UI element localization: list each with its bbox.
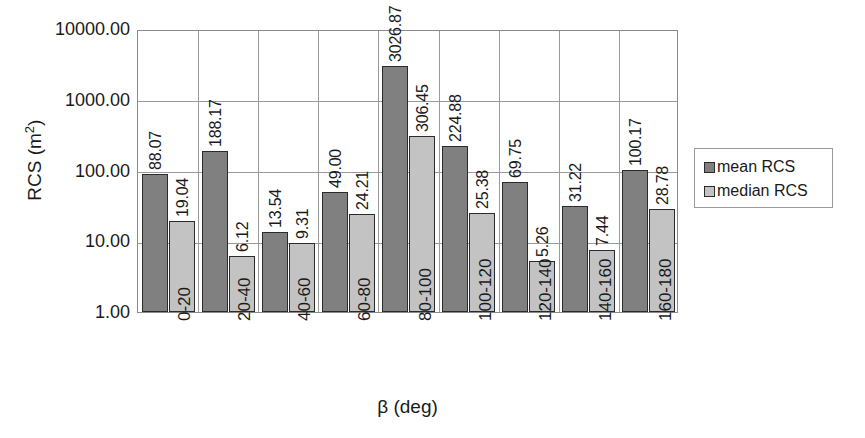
x-axis-tick-label: 140-160 bbox=[596, 259, 616, 321]
bar-value-label: 31.22 bbox=[567, 163, 585, 202]
bar-mean[interactable] bbox=[202, 151, 228, 312]
legend-item[interactable]: median RCS bbox=[704, 181, 808, 201]
legend-item[interactable]: mean RCS bbox=[704, 157, 795, 177]
x-axis-tick-label: 0-20 bbox=[175, 287, 195, 321]
x-axis-tick-label: 20-40 bbox=[235, 278, 255, 321]
bar-mean[interactable] bbox=[442, 146, 468, 312]
legend-swatch-icon bbox=[704, 162, 715, 173]
legend-label: mean RCS bbox=[717, 158, 795, 176]
bar-group: 88.0719.04 bbox=[138, 31, 198, 312]
bar-mean[interactable] bbox=[142, 174, 168, 312]
x-axis-tick-label: 160-180 bbox=[656, 259, 676, 321]
x-axis-tick-label: 40-60 bbox=[295, 278, 315, 321]
bar-value-label: 28.78 bbox=[654, 166, 672, 205]
x-axis-tick-label: 60-80 bbox=[355, 278, 375, 321]
bar-value-label: 7.44 bbox=[594, 216, 612, 246]
rcs-bar-chart: RCS (m2) 10000.001000.00100.0010.001.00 … bbox=[0, 0, 865, 438]
y-axis-tick-label: 10000.00 bbox=[20, 19, 130, 40]
bar-value-label: 3026.87 bbox=[387, 5, 405, 61]
bar-value-label: 88.07 bbox=[147, 131, 165, 170]
bar-value-label: 100.17 bbox=[627, 119, 645, 167]
bar-group: 188.176.12 bbox=[198, 31, 258, 312]
bar-value-label: 306.45 bbox=[414, 84, 432, 132]
x-axis-title: β (deg) bbox=[0, 396, 815, 418]
y-axis-tick-labels: 10000.001000.00100.0010.001.00 bbox=[18, 0, 130, 438]
bar-value-label: 6.12 bbox=[234, 222, 252, 252]
bar-value-label: 25.38 bbox=[474, 170, 492, 209]
bar-mean[interactable] bbox=[382, 66, 408, 312]
y-axis-tick-label: 100.00 bbox=[20, 161, 130, 182]
x-axis-tick-label: 100-120 bbox=[476, 259, 496, 321]
bar-value-label: 69.75 bbox=[507, 139, 525, 178]
bar-mean[interactable] bbox=[562, 206, 588, 312]
x-axis-tick-label: 120-140 bbox=[536, 259, 556, 321]
bar-value-label: 13.54 bbox=[267, 189, 285, 228]
bar-mean[interactable] bbox=[622, 170, 648, 312]
y-axis-tick-label: 1000.00 bbox=[20, 90, 130, 111]
y-axis-tick-label: 1.00 bbox=[20, 302, 130, 323]
bar-group: 49.0024.21 bbox=[318, 31, 378, 312]
bar-value-label: 19.04 bbox=[174, 178, 192, 217]
bar-value-label: 24.21 bbox=[354, 171, 372, 210]
bar-value-label: 5.26 bbox=[534, 227, 552, 257]
bar-value-label: 9.31 bbox=[294, 209, 312, 239]
legend-label: median RCS bbox=[717, 182, 808, 200]
legend-swatch-icon bbox=[704, 186, 715, 197]
bar-value-label: 49.00 bbox=[327, 149, 345, 188]
bar-value-label: 224.88 bbox=[447, 94, 465, 142]
bar-mean[interactable] bbox=[322, 192, 348, 312]
bar-mean[interactable] bbox=[502, 182, 528, 312]
legend: mean RCSmedian RCS bbox=[694, 148, 833, 208]
y-axis-tick-label: 10.00 bbox=[20, 231, 130, 252]
x-axis-tick-label: 80-100 bbox=[416, 268, 436, 321]
bar-value-label: 188.17 bbox=[207, 99, 225, 147]
bar-mean[interactable] bbox=[262, 232, 288, 312]
bar-group: 13.549.31 bbox=[258, 31, 318, 312]
